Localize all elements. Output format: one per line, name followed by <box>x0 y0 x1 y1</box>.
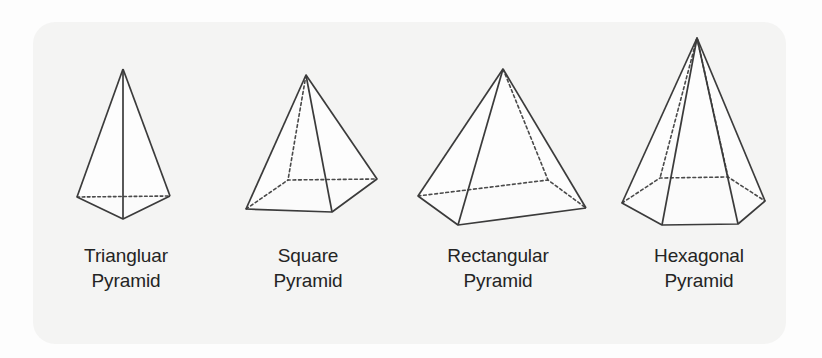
pyramids-figure-page: Triangluar Pyramid Square Pyramid Rectan… <box>0 0 822 358</box>
label-square-pyramid: Square Pyramid <box>228 243 388 293</box>
shape-hexagonal-pyramid <box>622 38 765 225</box>
shape-rectangular-pyramid <box>418 69 586 225</box>
label-line-1: Hexagonal <box>604 243 794 268</box>
label-line-1: Rectangular <box>398 243 598 268</box>
label-rectangular-pyramid: Rectangular Pyramid <box>398 243 598 293</box>
label-line-2: Pyramid <box>604 268 794 293</box>
label-line-2: Pyramid <box>228 268 388 293</box>
pyramids-diagram <box>0 0 822 358</box>
label-line-2: Pyramid <box>398 268 598 293</box>
label-hexagonal-pyramid: Hexagonal Pyramid <box>604 243 794 293</box>
label-line-1: Triangluar <box>46 243 206 268</box>
label-line-2: Pyramid <box>46 268 206 293</box>
label-line-1: Square <box>228 243 388 268</box>
label-triangular-pyramid: Triangluar Pyramid <box>46 243 206 293</box>
shape-square-pyramid <box>246 75 377 212</box>
shape-triangular-pyramid <box>77 69 170 219</box>
